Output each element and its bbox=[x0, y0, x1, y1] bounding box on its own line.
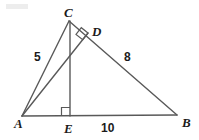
measure-label-ac: 5 bbox=[34, 51, 41, 63]
geometry-figure: C D A E B 5 8 10 bbox=[0, 0, 199, 140]
vertex-label-d: D bbox=[92, 25, 101, 38]
vertex-label-c: C bbox=[64, 6, 73, 19]
right-angle-marker-e bbox=[62, 108, 71, 117]
vertex-label-e: E bbox=[64, 122, 73, 135]
segment-ac bbox=[22, 21, 69, 116]
vertex-label-a: A bbox=[14, 117, 23, 130]
segment-cb bbox=[69, 21, 177, 115]
segment-ab bbox=[22, 115, 177, 116]
measure-label-db: 8 bbox=[124, 51, 131, 63]
segment-ad bbox=[22, 33, 88, 116]
measure-label-eb: 10 bbox=[101, 122, 114, 134]
diagram-canvas bbox=[0, 0, 199, 140]
vertex-label-b: B bbox=[182, 116, 191, 129]
